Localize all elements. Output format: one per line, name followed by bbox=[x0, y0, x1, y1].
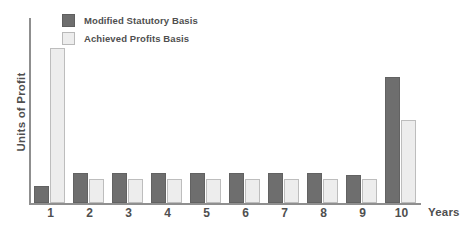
bar-modified-statutory-basis bbox=[307, 173, 322, 203]
bar-achieved-profits-basis bbox=[167, 179, 182, 203]
bar-modified-statutory-basis bbox=[151, 173, 166, 203]
x-tick-label: 7 bbox=[270, 206, 300, 220]
x-tick-label: 1 bbox=[36, 206, 66, 220]
bar-modified-statutory-basis bbox=[346, 175, 361, 203]
bar-achieved-profits-basis bbox=[50, 48, 65, 203]
bar-group bbox=[307, 18, 338, 203]
bar-modified-statutory-basis bbox=[190, 173, 205, 203]
bar-achieved-profits-basis bbox=[401, 120, 416, 203]
plot-area bbox=[31, 18, 421, 203]
x-tick-label: 6 bbox=[231, 206, 261, 220]
bar-modified-statutory-basis bbox=[385, 77, 400, 203]
bar-achieved-profits-basis bbox=[362, 179, 377, 203]
y-axis-title: Units of Profit bbox=[15, 62, 27, 162]
bar-modified-statutory-basis bbox=[34, 186, 49, 203]
bar-group bbox=[346, 18, 377, 203]
bar-group bbox=[34, 18, 65, 203]
bar-modified-statutory-basis bbox=[112, 173, 127, 203]
x-tick-label: 3 bbox=[114, 206, 144, 220]
bar-chart: Modified Statutory Basis Achieved Profit… bbox=[0, 0, 474, 234]
x-tick-label: 5 bbox=[192, 206, 222, 220]
x-tick-label: 4 bbox=[153, 206, 183, 220]
x-tick-label: 9 bbox=[348, 206, 378, 220]
bar-group bbox=[385, 18, 416, 203]
bar-achieved-profits-basis bbox=[245, 179, 260, 203]
bar-achieved-profits-basis bbox=[284, 179, 299, 203]
bar-achieved-profits-basis bbox=[206, 179, 221, 203]
bar-group bbox=[190, 18, 221, 203]
bar-modified-statutory-basis bbox=[229, 173, 244, 203]
x-tick-label: 2 bbox=[75, 206, 105, 220]
bar-group bbox=[229, 18, 260, 203]
x-tick-label: 10 bbox=[387, 206, 417, 220]
bar-group bbox=[151, 18, 182, 203]
bar-modified-statutory-basis bbox=[73, 173, 88, 203]
bar-group bbox=[112, 18, 143, 203]
bar-achieved-profits-basis bbox=[128, 179, 143, 203]
x-axis-title: Years bbox=[428, 206, 460, 218]
bar-group bbox=[73, 18, 104, 203]
bar-modified-statutory-basis bbox=[268, 173, 283, 203]
x-tick-label: 8 bbox=[309, 206, 339, 220]
bar-group bbox=[268, 18, 299, 203]
bar-achieved-profits-basis bbox=[89, 179, 104, 203]
bar-achieved-profits-basis bbox=[323, 179, 338, 203]
x-axis-line bbox=[29, 203, 421, 205]
